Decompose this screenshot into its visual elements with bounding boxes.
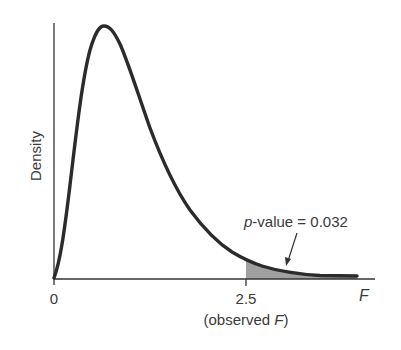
x-tick-label-2-5: 2.5 xyxy=(236,290,257,307)
observed-f-label: (observed F) xyxy=(203,311,288,328)
pvalue-arrow-line xyxy=(288,233,297,261)
f-distribution-chart: Density 0 2.5 (observed F) F p-value = 0… xyxy=(0,0,401,350)
pvalue-annotation: p-value = 0.032 xyxy=(243,213,348,230)
x-tick-label-0: 0 xyxy=(50,290,58,307)
arrowhead-icon xyxy=(285,257,291,266)
y-axis-label: Density xyxy=(27,130,44,181)
density-curve xyxy=(54,26,357,278)
x-axis-label: F xyxy=(359,287,370,304)
